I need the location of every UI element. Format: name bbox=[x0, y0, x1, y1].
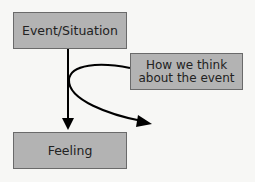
how-we-think-label: How we think about the event bbox=[138, 59, 234, 85]
event-situation-label: Event/Situation bbox=[22, 24, 118, 37]
how-we-think-line2: about the event bbox=[138, 71, 234, 85]
how-we-think-line1: How we think bbox=[146, 58, 227, 72]
feeling-box: Feeling bbox=[13, 132, 127, 169]
curve-arrowhead-icon bbox=[136, 115, 152, 127]
feeling-label: Feeling bbox=[48, 144, 93, 157]
down-arrowhead-icon bbox=[62, 118, 74, 130]
event-situation-box: Event/Situation bbox=[13, 12, 127, 49]
how-we-think-box: How we think about the event bbox=[130, 53, 243, 90]
